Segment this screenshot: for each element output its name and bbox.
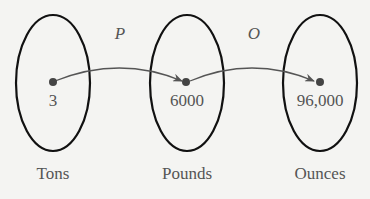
- arrow-p: [55, 68, 182, 81]
- set-label-tons: Tons: [37, 164, 70, 184]
- arrow-o: [190, 68, 314, 81]
- function-label-o: O: [248, 24, 260, 44]
- value-tons: 3: [49, 91, 58, 111]
- function-composition-diagram: P O 3 6000 96,000 Tons Pounds Ounces: [0, 0, 370, 199]
- point-pounds: [182, 78, 190, 86]
- set-label-ounces: Ounces: [295, 164, 346, 184]
- value-ounces: 96,000: [297, 91, 344, 111]
- set-label-pounds: Pounds: [162, 164, 212, 184]
- function-label-p: P: [115, 24, 125, 44]
- value-pounds: 6000: [170, 91, 204, 111]
- point-ounces: [316, 78, 324, 86]
- point-tons: [49, 78, 57, 86]
